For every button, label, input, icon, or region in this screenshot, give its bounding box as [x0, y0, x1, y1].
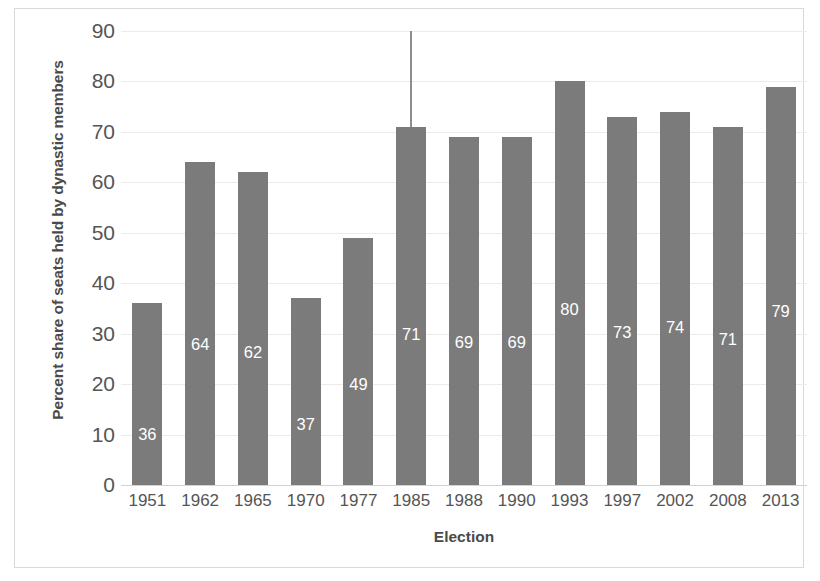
bar-group-1985: 71: [385, 31, 438, 485]
bar-2013[interactable]: [766, 87, 796, 486]
y-tick-label-90: 90: [69, 19, 115, 43]
bar-value-label-1988: 69: [455, 334, 473, 351]
x-tick-label-1977: 1977: [340, 491, 378, 511]
error-bar-1985: [410, 31, 412, 127]
bar-group-1993: 80: [543, 31, 596, 485]
bar-group-2013: 79: [754, 31, 807, 485]
x-tick-label-2013: 2013: [762, 491, 800, 511]
bar-value-label-1990: 69: [508, 334, 526, 351]
y-tick-label-0: 0: [69, 473, 115, 497]
bar-group-1988: 69: [438, 31, 491, 485]
bar-2008[interactable]: [713, 127, 743, 485]
x-axis-tick-labels: 1951196219651970197719851988199019931997…: [121, 491, 807, 521]
x-axis-title: Election: [121, 528, 807, 546]
y-tick-label-30: 30: [69, 321, 115, 345]
bar-1997[interactable]: [607, 117, 637, 485]
bar-group-2008: 71: [701, 31, 754, 485]
bar-1970[interactable]: [291, 298, 321, 485]
y-tick-label-10: 10: [69, 422, 115, 446]
bar-group-1990: 69: [490, 31, 543, 485]
bar-group-1977: 49: [332, 31, 385, 485]
y-tick-label-80: 80: [69, 69, 115, 93]
bar-1993[interactable]: [555, 81, 585, 485]
bar-value-label-2013: 79: [771, 303, 789, 320]
y-tick-label-60: 60: [69, 170, 115, 194]
y-tick-label-50: 50: [69, 220, 115, 244]
x-tick-label-1988: 1988: [445, 491, 483, 511]
x-tick-label-1993: 1993: [551, 491, 589, 511]
x-tick-label-1951: 1951: [128, 491, 166, 511]
chart-frame: Percent share of seats held by dynastic …: [14, 8, 804, 568]
bar-group-1970: 37: [279, 31, 332, 485]
x-tick-label-1997: 1997: [603, 491, 641, 511]
y-tick-label-40: 40: [69, 271, 115, 295]
bar-value-label-1997: 73: [613, 324, 631, 341]
bar-value-label-2002: 74: [666, 319, 684, 336]
bar-1965[interactable]: [238, 172, 268, 485]
bars-layer: 36646237497169698073747179: [121, 31, 807, 485]
x-tick-label-2008: 2008: [709, 491, 747, 511]
bar-value-label-1970: 37: [296, 416, 314, 433]
bar-group-1951: 36: [121, 31, 174, 485]
bar-value-label-1985: 71: [402, 326, 420, 343]
bar-group-1962: 64: [174, 31, 227, 485]
bar-value-label-1977: 49: [349, 376, 367, 393]
bar-group-1965: 62: [227, 31, 280, 485]
bar-1977[interactable]: [343, 238, 373, 485]
bar-value-label-2008: 71: [719, 331, 737, 348]
gridline-0: [121, 485, 807, 486]
bar-value-label-1951: 36: [138, 426, 156, 443]
x-tick-label-1970: 1970: [287, 491, 325, 511]
y-tick-label-20: 20: [69, 372, 115, 396]
plot-area: 36646237497169698073747179: [121, 31, 807, 485]
x-tick-label-1985: 1985: [392, 491, 430, 511]
x-tick-label-2002: 2002: [656, 491, 694, 511]
x-tick-label-1965: 1965: [234, 491, 272, 511]
bar-1990[interactable]: [502, 137, 532, 485]
bar-group-1997: 73: [596, 31, 649, 485]
bar-1988[interactable]: [449, 137, 479, 485]
bar-1985[interactable]: [396, 127, 426, 485]
bar-1962[interactable]: [185, 162, 215, 485]
bar-group-2002: 74: [649, 31, 702, 485]
x-tick-label-1962: 1962: [181, 491, 219, 511]
bar-value-label-1993: 80: [560, 301, 578, 318]
y-axis-tick-labels: 9080706050403020100: [61, 31, 115, 485]
bar-2002[interactable]: [660, 112, 690, 485]
bar-1951[interactable]: [132, 303, 162, 485]
bar-value-label-1965: 62: [244, 344, 262, 361]
bar-value-label-1962: 64: [191, 336, 209, 353]
x-tick-label-1990: 1990: [498, 491, 536, 511]
y-tick-label-70: 70: [69, 119, 115, 143]
